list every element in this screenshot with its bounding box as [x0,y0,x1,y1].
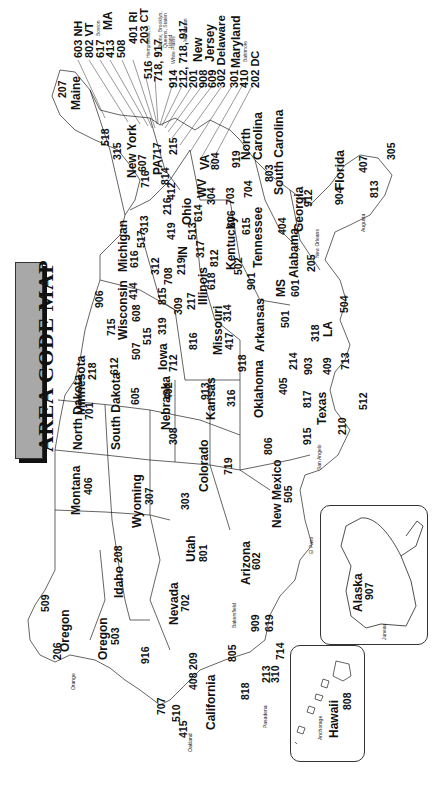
code-701: 701 [84,402,95,420]
code-315: 315 [112,142,123,160]
code-801: 801 [198,544,209,562]
state-montana: Montana [70,466,82,515]
code-502: 502 [233,257,244,275]
code-804: 804 [210,152,221,170]
code-712: 712 [168,354,179,372]
code-714: 714 [275,642,286,660]
code-816: 816 [188,332,199,350]
code-407: 407 [358,155,369,173]
code-319: 319 [157,317,168,335]
code-409: 409 [322,357,333,375]
state-nebraska: Nebraska [160,376,172,430]
callout-dc: 202 DC [250,51,261,88]
code-316: 316 [226,389,237,407]
code-602: 602 [251,552,262,570]
code-909: 909 [250,614,261,632]
code-208: 208 [113,545,124,563]
state-north-carolina: North Carolina [240,115,264,160]
code-206: 206 [52,642,63,660]
code-904: 904 [334,187,345,205]
code-601: 601 [290,279,301,297]
code-608: 608 [131,304,142,322]
state-oklahoma: Oklahoma [253,360,265,418]
city-san-angelo: San Angelo [317,444,322,470]
state-texas: Texas [316,392,328,425]
city-el-paso: El Paso [309,537,314,554]
state-wyoming: Wyoming [131,474,143,528]
code-406: 406 [83,477,94,495]
code-414: 414 [128,282,139,300]
code-303: 303 [180,492,191,510]
code-818: 818 [240,682,251,700]
city-white-plains: White Plains [171,36,176,64]
code-812: 812 [209,249,220,267]
state-kansas: Kansas [205,377,217,420]
code-504: 504 [339,295,350,313]
state-ms: MS [275,279,287,297]
code-313: 313 [139,215,150,233]
callout-ma-508: 508 [116,40,127,58]
city-manhattan: Manhattan [183,18,188,42]
code-806: 806 [263,437,274,455]
code-704: 704 [243,180,254,198]
code-815: 815 [157,287,168,305]
code-907: 907 [364,582,375,600]
code-708: 708 [163,267,174,285]
code-309: 309 [173,297,184,315]
state-south-dakota: South Dakota [110,373,122,450]
code-215: 215 [168,137,179,155]
code-813: 813 [369,180,380,198]
code-717: 717 [152,142,163,160]
code-217: 217 [186,292,197,310]
code-616: 616 [129,250,140,268]
code-615: 615 [241,217,252,235]
code-515: 515 [142,327,153,345]
state-tennessee: Tennessee [252,207,264,268]
city-san-francisco: Oakland [188,733,193,752]
city-hempstead: Hempstead, LI [146,25,151,58]
code-916: 916 [140,646,151,664]
code-505: 505 [283,485,294,503]
state-in: IN [177,246,189,258]
code-901: 901 [246,272,257,290]
state-arkansas: Arkansas [254,298,266,352]
state-oregon: Oregon [97,617,109,660]
callout-nj-label: New Jersey [192,17,216,62]
code-308: 308 [168,427,179,445]
code-619: 619 [264,614,275,632]
city-honolulu: Anchorage [318,716,323,740]
code-805: 805 [227,644,238,662]
callout-delaware: 302 Delaware [216,15,228,88]
code-915: 915 [302,427,313,445]
callout-md-label: Maryland [230,15,242,68]
code-512: 512 [358,392,369,410]
state-colorado: Colorado [198,439,210,492]
code-808: 808 [342,692,353,710]
code-307: 307 [144,487,155,505]
code-719: 719 [223,457,234,475]
code-716: 716 [140,170,151,188]
code-214: 214 [288,352,299,370]
area-code-map: AREA CODE MAP 603 NH 802 VT 617 413 508 … [0,0,443,786]
code-304: 304 [206,187,217,205]
code-906: 906 [94,290,105,308]
code-305: 305 [386,142,397,160]
code-417: 417 [224,332,235,350]
alaska-inset [320,505,428,645]
city-st-petersburg: Augusta [361,214,366,232]
state-hawaii: Hawaii [328,700,340,738]
state-maine: Maine [70,76,82,110]
code-501: 501 [280,310,291,328]
city-baltimore: Baltimore [243,41,248,62]
code-210: 210 [337,417,348,435]
city-anchorage: Juneau [382,624,387,640]
city-santa-barbara: Bakersfield [232,603,237,628]
code-312: 312 [150,257,161,275]
code-408: 408 [188,672,199,690]
code-817: 817 [302,390,313,408]
city-boston: Boston [96,20,101,36]
code-209: 209 [188,652,199,670]
code-405: 405 [278,377,289,395]
code-903: 903 [303,357,314,375]
code-419: 419 [166,222,177,240]
